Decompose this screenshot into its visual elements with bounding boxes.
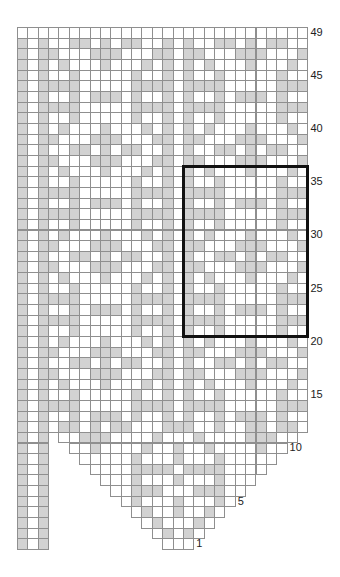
stitch-cell xyxy=(297,112,308,124)
stitch-cell xyxy=(297,48,308,60)
stitch-cell xyxy=(297,91,308,103)
stitch-cell xyxy=(297,379,308,391)
stitch-cell xyxy=(38,443,49,455)
stitch-cell xyxy=(245,474,256,486)
stitch-cell xyxy=(38,453,49,465)
row-number-label: 1 xyxy=(196,538,202,549)
row-number-label: 40 xyxy=(310,123,322,134)
row-number-label: 20 xyxy=(310,336,322,347)
stitch-cell xyxy=(297,389,308,401)
row-number-label: 35 xyxy=(310,176,322,187)
stitch-cell xyxy=(204,517,215,529)
stitch-cell xyxy=(38,528,49,540)
stitch-cell xyxy=(297,347,308,359)
row-number-label: 5 xyxy=(238,496,244,507)
stitch-cell xyxy=(297,400,308,412)
stitch-cell xyxy=(214,506,225,518)
knitting-chart: 49454035302520151051 xyxy=(0,0,340,577)
row-number-label: 10 xyxy=(290,442,302,453)
stitch-cell xyxy=(297,357,308,369)
stitch-cell xyxy=(38,517,49,529)
stitch-cell xyxy=(38,432,49,444)
stitch-cell xyxy=(38,496,49,508)
row-number-label: 45 xyxy=(310,70,322,81)
stitch-cell xyxy=(38,474,49,486)
stitch-cell xyxy=(297,80,308,92)
stitch-cell xyxy=(38,485,49,497)
stitch-cell xyxy=(297,27,308,39)
stitch-cell xyxy=(38,538,49,550)
stitch-cell xyxy=(297,59,308,71)
stitch-cell xyxy=(297,123,308,135)
pattern-repeat-box xyxy=(182,165,309,338)
stitch-cell xyxy=(297,144,308,156)
stitch-cell xyxy=(266,453,277,465)
stitch-cell xyxy=(256,464,267,476)
row-number-label: 30 xyxy=(310,229,322,240)
stitch-cell xyxy=(224,496,235,508)
stitch-cell xyxy=(183,538,194,550)
stitch-cell xyxy=(297,421,308,433)
row-number-label: 15 xyxy=(310,389,322,400)
stitch-cell xyxy=(276,443,287,455)
stitch-cell xyxy=(297,411,308,423)
stitch-cell xyxy=(297,368,308,380)
stitch-cell xyxy=(38,506,49,518)
stitch-cell xyxy=(297,38,308,50)
stitch-cell xyxy=(297,102,308,114)
stitch-cell xyxy=(297,134,308,146)
stitch-cell xyxy=(297,70,308,82)
row-number-label: 49 xyxy=(310,27,322,38)
row-number-label: 25 xyxy=(310,283,322,294)
stitch-cell xyxy=(38,464,49,476)
